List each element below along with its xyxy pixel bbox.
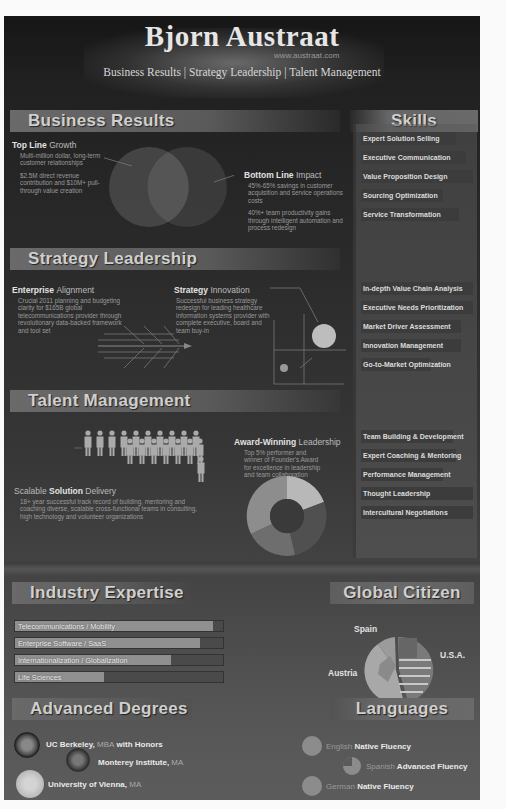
skill-item: Intercultural Negotiations (361, 506, 448, 519)
german-fluency-icon (302, 776, 322, 796)
bottom-line-impact-label: Bottom Line Impact (244, 170, 321, 180)
bottom-line-impact-text: 45%-65% savings in customer acquisition … (248, 182, 344, 236)
industry-bar: Enterprise Software / SaaS (14, 637, 224, 649)
page-subtitle: Business Results | Strategy Leadership |… (4, 66, 480, 78)
industry-bar: Life Sciences (14, 671, 224, 683)
english-fluency-icon (302, 736, 322, 756)
section-heading-global-citizen: Global Citizen (330, 582, 474, 604)
venn-diagram-icon (104, 142, 234, 232)
spanish-fluency-icon (342, 756, 362, 776)
section-heading-business-results: Business Results (10, 110, 340, 132)
skill-item: Innovation Management (361, 339, 443, 352)
section-heading-industry-expertise: Industry Expertise (12, 582, 192, 604)
section-heading-advanced-degrees: Advanced Degrees (12, 698, 192, 720)
donut-chart-icon (242, 471, 332, 561)
uc-berkeley-seal-icon (14, 732, 40, 758)
team-people-icon (74, 426, 208, 488)
industry-bar: Telecommunications / Mobility (14, 620, 224, 632)
scalable-solution-delivery-label: Scalable Solution Delivery (14, 486, 116, 496)
skill-item: In-depth Value Chain Analysis (361, 282, 463, 295)
award-winning-leadership-label: Award-Winning Leadership (234, 437, 341, 447)
resume-infographic: Bjorn Austraat www.austraat.com Business… (4, 16, 480, 800)
top-line-growth-text: Multi-million dollar, long-term customer… (20, 152, 112, 199)
skill-item: Executive Communication (361, 151, 451, 164)
strategy-innovation-label: Strategy Innovation (174, 285, 250, 295)
skill-item: Team Building & Development (361, 430, 464, 443)
top-line-growth-label: Top Line Growth (12, 140, 77, 150)
language-german: German Native Fluency (326, 782, 414, 791)
country-label-spain: Spain (354, 624, 377, 634)
country-label-usa: U.S.A. (440, 650, 465, 660)
monterey-institute-seal-icon (66, 748, 90, 772)
degree-uc-berkeley: UC Berkeley, MBA with Honors (46, 740, 163, 749)
section-divider (4, 562, 480, 576)
degree-monterey-institute: Monterey Institute, MA (98, 758, 183, 767)
skill-item: Sourcing Optimization (361, 189, 438, 202)
enterprise-alignment-label: Enterprise Alignment (12, 285, 94, 295)
language-spanish: Spanish Advanced Fluency (366, 762, 468, 771)
skills-panel: Expert Solution Selling Executive Commun… (353, 124, 477, 558)
skill-item: Go-to-Market Optimization (361, 358, 451, 371)
country-label-austria: Austria (328, 668, 357, 678)
skill-item: Value Proposition Design (361, 170, 447, 183)
degree-university-of-vienna: University of Vienna, MA (48, 780, 141, 789)
skill-item: Service Transformation (361, 208, 441, 221)
skill-item: Thought Leadership (361, 487, 430, 500)
skill-item: Expert Solution Selling (361, 132, 440, 145)
bubble-chart-icon (260, 284, 350, 394)
industry-bar: Internationalization / Globalization (14, 654, 224, 666)
university-of-vienna-seal-icon (16, 770, 44, 798)
section-heading-languages: Languages (330, 698, 474, 720)
language-english: English Native Fluency (326, 742, 411, 751)
skill-item: Performance Management (361, 468, 451, 481)
skill-item: Market Driver Assessment (361, 320, 451, 333)
skill-item: Expert Coaching & Mentoring (361, 449, 461, 462)
section-heading-strategy-leadership: Strategy Leadership (10, 248, 340, 270)
website-url: www.austraat.com (274, 51, 339, 60)
skill-item: Executive Needs Prioritization (361, 301, 463, 314)
scalable-solution-delivery-text: 18+ year successful track record of buil… (20, 498, 200, 520)
section-heading-talent-management: Talent Management (10, 390, 340, 412)
country-pie-chart-icon (362, 634, 436, 708)
page-title: Bjorn Austraat (4, 20, 480, 53)
